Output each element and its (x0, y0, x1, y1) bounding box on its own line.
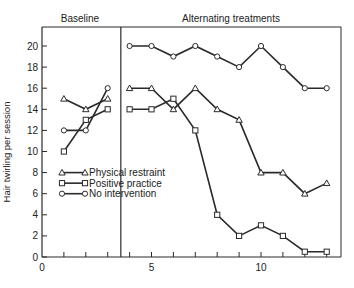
circle-marker (82, 191, 87, 196)
square-marker (149, 107, 154, 112)
square-marker (215, 212, 220, 217)
y-tick-label: 6 (32, 188, 38, 199)
square-marker (258, 223, 263, 228)
circle-marker (61, 128, 66, 133)
y-tick-label: 14 (27, 104, 39, 115)
square-marker (324, 249, 329, 254)
circle-marker (258, 43, 263, 48)
phase-label-baseline: Baseline (61, 13, 100, 24)
square-marker (280, 233, 285, 238)
y-tick-label: 0 (32, 252, 38, 263)
square-marker (59, 181, 64, 186)
legend-label: Positive practice (89, 178, 162, 189)
series-line (130, 46, 327, 88)
y-tick-label: 4 (32, 209, 38, 220)
x-tick-label: 10 (255, 262, 267, 273)
y-tick-label: 16 (27, 83, 39, 94)
triangle-marker (61, 96, 67, 102)
legend-label: No intervention (89, 188, 156, 199)
triangle-marker (105, 96, 111, 102)
y-tick-label: 18 (27, 62, 39, 73)
legend-label: Physical restraint (89, 167, 165, 178)
y-tick-label: 12 (27, 125, 39, 136)
y-tick-label: 20 (27, 41, 39, 52)
circle-marker (193, 43, 198, 48)
circle-marker (83, 128, 88, 133)
square-marker (302, 249, 307, 254)
circle-marker (324, 86, 329, 91)
circle-marker (59, 191, 64, 196)
circle-marker (215, 54, 220, 59)
y-tick-label: 2 (32, 230, 38, 241)
square-marker (193, 128, 198, 133)
x-tick-label: 0 (39, 262, 45, 273)
circle-marker (105, 86, 110, 91)
square-marker (61, 149, 66, 154)
square-marker (82, 181, 87, 186)
circle-marker (171, 54, 176, 59)
square-marker (105, 107, 110, 112)
square-marker (237, 233, 242, 238)
x-tick-label: 5 (149, 262, 155, 273)
axes: 024681012141618200510 (27, 27, 341, 273)
line-chart: Baseline Alternating treatments Hair twi… (0, 0, 354, 288)
circle-marker (302, 86, 307, 91)
square-marker (171, 96, 176, 101)
phase-label-treatments: Alternating treatments (182, 13, 280, 24)
circle-marker (127, 43, 132, 48)
y-axis-label: Hair twirling per session (1, 102, 12, 203)
y-tick-label: 10 (27, 146, 39, 157)
plot-frame (42, 27, 341, 257)
y-tick-label: 8 (32, 167, 38, 178)
square-marker (127, 107, 132, 112)
square-marker (83, 117, 88, 122)
circle-marker (280, 65, 285, 70)
triangle-marker (324, 180, 330, 186)
circle-marker (237, 65, 242, 70)
legend: No interventionPositive practicePhysical… (59, 167, 166, 199)
circle-marker (149, 43, 154, 48)
series-group (61, 43, 330, 254)
triangle-marker (192, 85, 198, 91)
